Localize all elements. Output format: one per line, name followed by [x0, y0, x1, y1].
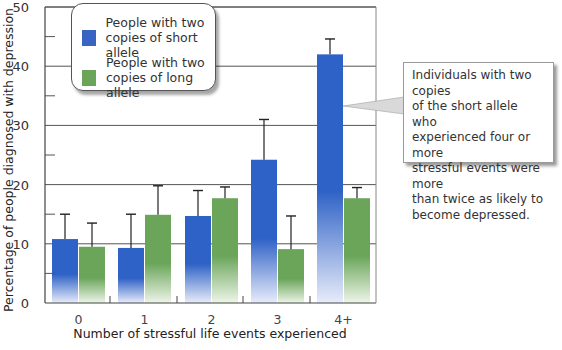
bar [185, 216, 211, 303]
callout-pointer [343, 97, 404, 114]
x-axis-title: Number of stressful life events experien… [73, 326, 346, 341]
legend-item-long-allele: People with two copies of long allele [82, 55, 215, 100]
bar [212, 198, 238, 303]
legend: People with two copies of short allele P… [71, 3, 216, 91]
y-tick-label: 0 [21, 296, 29, 311]
legend-swatch-long [82, 70, 96, 86]
bar [145, 215, 171, 303]
x-tick-label: 4+ [334, 312, 352, 327]
bar [344, 198, 370, 303]
bar [317, 54, 343, 303]
bar [251, 160, 277, 303]
legend-label-long: People with two copies of long allele [106, 55, 215, 100]
bar [79, 247, 105, 303]
legend-label-short: People with two copies of short allele [106, 15, 215, 60]
x-tick-label: 1 [141, 312, 149, 327]
bar [52, 239, 78, 303]
x-tick-label: 0 [75, 312, 83, 327]
annotation-callout: Individuals with two copies of the short… [403, 62, 554, 163]
y-axis-title: Percentage of people diagnosed with depr… [1, 8, 16, 312]
bar [278, 249, 304, 303]
x-tick-label: 2 [208, 312, 216, 327]
callout-text: Individuals with two copies of the short… [412, 68, 545, 223]
legend-swatch-short [82, 30, 96, 46]
bar [118, 248, 144, 303]
x-tick-label: 3 [274, 312, 282, 327]
legend-item-short-allele: People with two copies of short allele [82, 15, 215, 60]
